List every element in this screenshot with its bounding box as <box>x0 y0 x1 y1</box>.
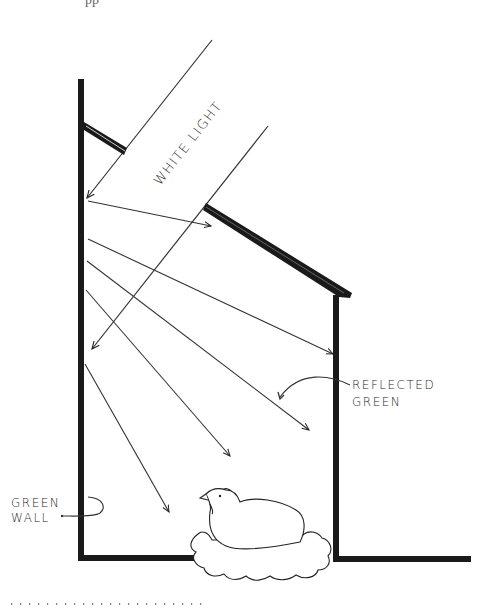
white-light-beam <box>87 40 268 349</box>
greenhouse-light-diagram: pp WHITE LIGHT REFLECTED GREEN GREEN WAL… <box>0 0 487 612</box>
floor-right <box>333 556 471 562</box>
left-wall <box>78 79 84 561</box>
green-wall-label-line2: WALL <box>11 511 50 525</box>
top-text-fragment: pp <box>85 0 99 7</box>
roof <box>84 122 352 298</box>
floor-left <box>78 555 194 561</box>
reflected-rays <box>85 201 333 512</box>
white-light-label: WHITE LIGHT <box>151 98 226 188</box>
hen-eye <box>219 495 221 497</box>
green-wall-label-line1: GREEN <box>11 496 60 510</box>
reflected-green-pointer <box>280 377 350 397</box>
reflected-green-label-line1: REFLECTED <box>352 378 435 392</box>
right-wall <box>333 295 339 562</box>
reflected-green-label-line2: GREEN <box>352 395 401 409</box>
